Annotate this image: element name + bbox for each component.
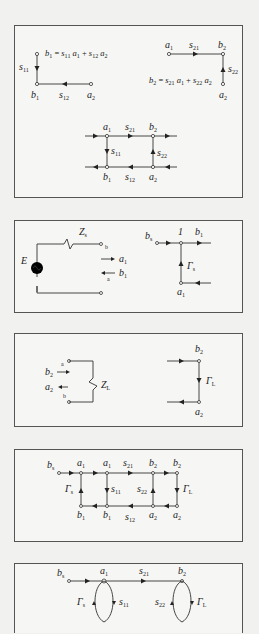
arrow-right-icon [197, 241, 202, 246]
svg-text:a1: a1 [103, 121, 111, 133]
svg-text:s21: s21 [125, 121, 135, 133]
svg-text:a: a [107, 276, 110, 282]
svg-text:b: b [63, 393, 66, 399]
arrow-left-icon [179, 400, 184, 405]
svg-text:b2: b2 [149, 457, 157, 469]
arrow-left-icon [195, 281, 200, 286]
arrow-right-icon [69, 471, 74, 476]
arrow-left-icon [92, 504, 97, 509]
arrow-up-icon [79, 488, 84, 493]
arrow-down-icon [35, 66, 40, 71]
svg-text:a2: a2 [173, 509, 181, 521]
equation-b2: b2 = s21 a1 + s22 a2 [149, 75, 212, 86]
svg-text:a1: a1 [103, 457, 111, 469]
svg-text:s11: s11 [119, 596, 129, 608]
arrow-right-icon [66, 370, 70, 374]
svg-text:a: a [61, 361, 64, 367]
arrow-right-icon [166, 241, 171, 246]
svg-text:s22: s22 [155, 596, 165, 608]
svg-text:a1: a1 [177, 286, 185, 298]
svg-text:a2: a2 [45, 381, 53, 393]
arrow-left-icon [128, 504, 133, 509]
equation-b1: b1 = s11 a1 + s12 a2 [45, 48, 108, 59]
arrow-left-icon [101, 271, 105, 275]
svg-text:a2: a2 [219, 89, 227, 101]
loop-gamma-s-s11 [95, 581, 113, 622]
svg-text:b1: b1 [103, 509, 111, 521]
svg-text:a2: a2 [87, 89, 95, 101]
arrow-down-icon [105, 488, 110, 493]
svg-text:bs: bs [145, 230, 153, 242]
arrow-right-icon [93, 134, 98, 139]
svg-text:s11: s11 [19, 61, 29, 73]
svg-text:Γs: Γs [64, 483, 74, 495]
svg-text:s22: s22 [137, 483, 147, 495]
svg-text:s11: s11 [111, 483, 121, 495]
svg-text:b2: b2 [173, 457, 181, 469]
svg-text:b1: b1 [195, 226, 203, 238]
svg-text:1: 1 [178, 226, 183, 237]
svg-text:ΓL: ΓL [182, 483, 193, 495]
svg-text:ΓL: ΓL [196, 596, 207, 608]
svg-text:b1: b1 [31, 89, 39, 101]
svg-text:Zs: Zs [79, 226, 88, 238]
svg-text:b1: b1 [103, 171, 111, 183]
arrow-right-icon [85, 579, 90, 584]
svg-text:b: b [105, 244, 108, 250]
svg-text:b2: b2 [178, 565, 186, 577]
load-model-diagram: ZL a b b2 a2 b2 ΓL a2 [15, 334, 244, 428]
arrow-right-icon [93, 471, 98, 476]
loop-s22-gamma-l [173, 581, 191, 622]
arrow-left-icon [93, 165, 98, 170]
svg-text:b2: b2 [218, 39, 226, 51]
panel-load-model: ZL a b b2 a2 b2 ΓL a2 [14, 333, 243, 427]
arrow-right-icon [193, 52, 198, 57]
arrow-up-icon [179, 261, 184, 266]
arrow-right-icon [164, 471, 169, 476]
svg-text:s22: s22 [157, 147, 167, 159]
arrow-down-icon [197, 378, 202, 383]
svg-text:s21: s21 [123, 457, 133, 469]
arrow-left-icon [128, 165, 133, 170]
svg-text:a1: a1 [100, 565, 108, 577]
arrow-down-icon [105, 149, 110, 154]
svg-text:Γs: Γs [186, 260, 196, 272]
panel-full-flow-graph: bs a1 a1 s21 b2 b2 Γs s11 s22 ΓL b1 b1 s… [14, 449, 243, 542]
arrow-right-icon [128, 134, 133, 139]
svg-text:s12: s12 [125, 511, 135, 523]
arrow-up-icon [151, 488, 156, 493]
svg-text:a1: a1 [77, 457, 85, 469]
svg-text:s22: s22 [228, 63, 238, 75]
arrow-left-icon [164, 504, 169, 509]
svg-text:Γs: Γs [76, 596, 86, 608]
svg-text:s21: s21 [139, 565, 149, 577]
arrow-down-icon [175, 488, 180, 493]
svg-text:ZL: ZL [101, 379, 111, 391]
arrow-left-icon [62, 82, 67, 87]
panel-reduced-flow-graph: bs a1 s21 b2 Γs s11 s22 ΓL [14, 563, 243, 633]
reduced-flow-graph-diagram: bs a1 s21 b2 Γs s11 s22 ΓL [15, 564, 244, 634]
svg-text:s21: s21 [189, 39, 199, 51]
panel-source-model: Zs E b a1 a b1 bs 1 b1 Γs a1 [14, 220, 243, 313]
svg-text:E: E [20, 255, 27, 266]
svg-text:a2: a2 [149, 509, 157, 521]
arrow-right-icon [165, 134, 170, 139]
arrow-left-icon [58, 385, 62, 389]
svg-text:s12: s12 [125, 171, 135, 183]
svg-text:b1: b1 [119, 267, 127, 279]
arrow-up-icon [151, 149, 156, 154]
svg-text:a2: a2 [149, 171, 157, 183]
arrow-right-icon [179, 359, 184, 364]
full-flow-graph-diagram: bs a1 a1 s21 b2 b2 Γs s11 s22 ΓL b1 b1 s… [15, 450, 244, 543]
s-parameter-subgraphs-diagram: s11 b1 s12 a2 b1 = s11 a1 + s12 a2 a1 s2… [15, 26, 244, 199]
arrow-up-icon [221, 67, 226, 72]
arrow-right-icon [128, 471, 133, 476]
svg-text:a1: a1 [119, 253, 127, 265]
svg-text:bs: bs [47, 459, 55, 471]
svg-text:a2: a2 [195, 406, 203, 418]
svg-text:b1: b1 [77, 509, 85, 521]
svg-text:ΓL: ΓL [205, 375, 216, 387]
arrow-right-icon [141, 579, 146, 584]
svg-text:s12: s12 [59, 89, 69, 101]
svg-text:b2: b2 [149, 121, 157, 133]
